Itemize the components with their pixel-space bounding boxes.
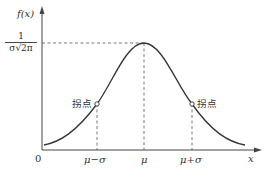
origin-label: 0 [35,154,41,164]
inflection-point-right-marker [190,102,194,106]
peak-denominator: σ√2π [4,43,38,53]
x-tick-mu-minus-sigma: μ−σ [84,155,106,165]
peak-value-label: 1 σ√2π [4,31,38,53]
x-tick-mu-plus-sigma: μ+σ [180,155,202,165]
inflection-point-right-label: 拐点 [197,99,217,109]
x-axis-label: x [248,154,254,164]
density-curve [44,43,245,145]
x-axis-arrow-icon [254,148,262,153]
inflection-point-left-marker [95,102,99,106]
peak-numerator: 1 [4,31,38,42]
y-axis-label: f(x) [17,9,34,19]
normal-distribution-chart [0,0,275,180]
y-axis-arrow-icon [40,6,45,14]
x-tick-mu: μ [141,155,148,165]
inflection-point-left-label: 拐点 [72,99,92,109]
